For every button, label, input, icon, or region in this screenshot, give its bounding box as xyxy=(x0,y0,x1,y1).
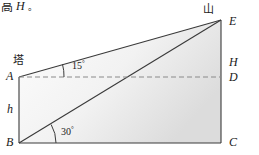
mountain-label: 山 xyxy=(203,4,214,15)
angle-label-15: 15° xyxy=(72,60,85,71)
point-label-e: E xyxy=(229,15,236,27)
angle-value-15: 15 xyxy=(72,60,82,71)
diagram-canvas xyxy=(0,0,259,155)
angle-label-30: 30° xyxy=(61,126,74,137)
geometry-figure: 高 H 。 塔 山 A B C D H E h 15° 30° xyxy=(0,0,259,155)
point-label-h: H xyxy=(229,56,238,68)
point-label-d: D xyxy=(229,71,238,83)
top-note-cjk: 高 xyxy=(1,3,13,12)
point-label-b: B xyxy=(6,136,13,148)
top-note-period: 。 xyxy=(28,2,37,12)
top-note-symbol: H xyxy=(16,0,25,13)
point-label-a: A xyxy=(6,70,13,82)
angle-degree-15: ° xyxy=(82,59,85,67)
angle-degree-30: ° xyxy=(71,125,74,133)
point-label-c: C xyxy=(229,136,237,148)
height-label-h: h xyxy=(7,103,13,115)
tower-label: 塔 xyxy=(13,55,24,66)
top-note: 高 H 。 xyxy=(1,0,37,12)
angle-value-30: 30 xyxy=(61,126,71,137)
